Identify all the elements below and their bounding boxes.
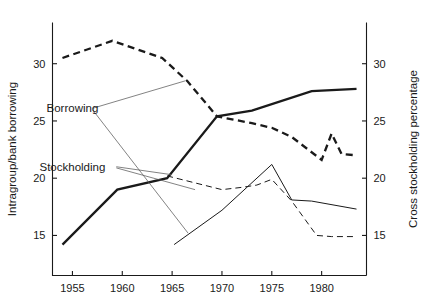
line-chart: 1955196019651970197519801520253015202530… — [0, 0, 431, 305]
series-line — [62, 89, 356, 245]
x-tick-label: 1955 — [60, 282, 84, 294]
x-tick-label: 1960 — [110, 282, 134, 294]
x-tick-label: 1970 — [210, 282, 234, 294]
series-layer — [62, 41, 356, 245]
axis-spines — [53, 23, 367, 276]
leaders-layer — [92, 81, 195, 233]
series-line — [167, 176, 356, 237]
y2-tick-label: 30 — [374, 58, 386, 70]
annotation-leader-line — [92, 81, 185, 108]
series-annotation-label: Borrowing — [47, 102, 99, 114]
annotations-layer: BorrowingStockholding — [40, 102, 106, 172]
y2-tick-label: 15 — [374, 229, 386, 241]
axis-titles-layer: Intragroup/bank borrowingCross stockhold… — [6, 70, 419, 228]
y-tick-label: 15 — [33, 229, 45, 241]
y-tick-label: 20 — [33, 172, 45, 184]
series-line — [62, 41, 356, 160]
y2-tick-label: 20 — [374, 172, 386, 184]
y2-axis-title: Cross stockholding percentage — [407, 70, 419, 228]
x-tick-label: 1975 — [260, 282, 284, 294]
series-annotation-label: Stockholding — [40, 161, 106, 173]
y-tick-label: 25 — [33, 115, 45, 127]
axes-layer: 1955196019651970197519801520253015202530 — [33, 23, 386, 294]
y-tick-label: 30 — [33, 58, 45, 70]
x-tick-label: 1965 — [160, 282, 184, 294]
y2-tick-label: 25 — [374, 115, 386, 127]
chart-container: 1955196019651970197519801520253015202530… — [0, 0, 431, 305]
x-tick-label: 1980 — [309, 282, 333, 294]
y-axis-title: Intragroup/bank borrowing — [6, 82, 18, 216]
annotation-leader-line — [116, 167, 172, 175]
series-line — [174, 164, 356, 244]
